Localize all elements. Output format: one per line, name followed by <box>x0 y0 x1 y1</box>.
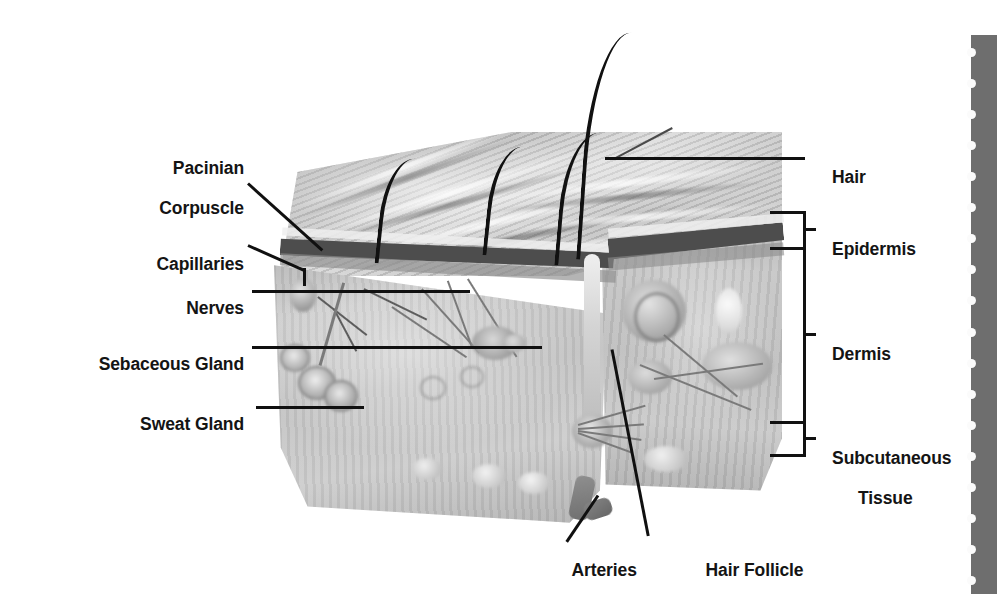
layer-bracket <box>770 211 806 457</box>
label-hair-follicle: Hair Follicle <box>650 540 840 594</box>
duct-cross-section <box>420 376 446 400</box>
filmstrip-sprocket-hole <box>967 296 976 305</box>
duct-cross-section <box>460 366 484 388</box>
label-line-1: Pacinian <box>173 158 244 178</box>
filmstrip-sprocket-hole <box>967 265 976 274</box>
bracket-divider-2 <box>770 421 806 424</box>
filmstrip-sprocket-hole <box>967 48 976 57</box>
label-pacinian-corpuscle: Pacinian Corpuscle <box>28 138 244 238</box>
filmstrip-sprocket-hole <box>967 359 976 368</box>
bracket-bottom-arm <box>770 454 806 457</box>
filmstrip-sprocket-hole <box>967 110 976 119</box>
subcutaneous-fat-nodule <box>412 458 442 480</box>
label-text: Hair <box>832 167 866 187</box>
label-hair: Hair <box>813 147 983 207</box>
label-text: Sebaceous Gland <box>99 354 244 374</box>
filmstrip-sprocket-hole <box>967 452 976 461</box>
leader-nerves <box>252 290 470 293</box>
filmstrip-sprocket-hole <box>967 483 976 492</box>
label-epidermis: Epidermis <box>813 219 993 279</box>
label-line-2: Corpuscle <box>159 198 244 218</box>
hair-follicle-structure <box>584 254 600 434</box>
bracket-divider-1 <box>770 247 806 250</box>
label-text: Hair Follicle <box>706 560 804 580</box>
filmstrip-sprocket-hole <box>967 576 976 585</box>
label-text: Nerves <box>186 298 244 318</box>
label-line-1: Subcutaneous <box>832 448 951 468</box>
label-dermis: Dermis <box>813 324 993 384</box>
label-arteries: Arteries <box>520 540 670 594</box>
label-sweat-gland: Sweat Gland <box>48 394 244 454</box>
subcutaneous-fat-nodule <box>472 464 506 488</box>
subcutaneous-fat-nodule <box>518 472 550 494</box>
label-sebaceous-gland: Sebaceous Gland <box>20 334 244 394</box>
label-text: Sweat Gland <box>140 414 244 434</box>
leader-sweat-gland <box>256 406 364 409</box>
filmstrip-sprocket-hole <box>967 545 976 554</box>
label-text: Dermis <box>832 344 891 364</box>
label-nerves: Nerves <box>54 278 244 338</box>
filmstrip-sprocket-hole <box>967 514 976 523</box>
skin-block-illustration <box>272 128 782 528</box>
filmstrip-sprocket-hole <box>967 234 976 243</box>
filmstrip-sprocket-hole <box>967 141 976 150</box>
leader-sebaceous-gland <box>252 346 542 349</box>
filmstrip-sprocket-hole <box>967 421 976 430</box>
filmstrip-sprocket-hole <box>967 79 976 88</box>
label-subcutaneous-tissue: Subcutaneous Tissue <box>813 428 993 528</box>
filmstrip-edge <box>971 35 997 594</box>
bracket-top-arm <box>770 211 806 214</box>
skin-diagram-canvas: Pacinian Corpuscle Capillaries Nerves Se… <box>0 0 997 594</box>
label-text: Epidermis <box>832 239 916 259</box>
label-line-2: Tissue <box>832 488 913 508</box>
filmstrip-sprocket-hole <box>967 172 976 181</box>
filmstrip-sprocket-hole <box>967 390 976 399</box>
apocrine-gland-side <box>716 288 742 334</box>
leader-capillaries-tick <box>303 268 306 286</box>
follicle-lumen-side <box>634 292 680 342</box>
leader-hair <box>605 157 805 160</box>
label-text: Arteries <box>572 560 637 580</box>
subcutaneous-fat-nodule <box>644 446 688 472</box>
sebaceous-lobule <box>504 334 526 352</box>
filmstrip-sprocket-hole <box>967 328 976 337</box>
label-text: Capillaries <box>157 254 244 274</box>
filmstrip-sprocket-hole <box>967 203 976 212</box>
